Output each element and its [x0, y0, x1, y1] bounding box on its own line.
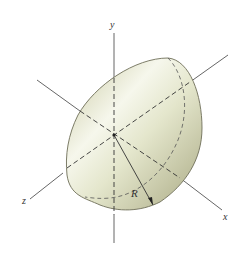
x-axis-label: x	[222, 211, 228, 222]
hemisphere-figure: y z x R	[0, 0, 245, 267]
z-axis-label: z	[21, 195, 26, 206]
origin-point	[112, 133, 115, 136]
radius-label: R	[130, 187, 138, 199]
y-axis-label: y	[109, 19, 115, 30]
hemisphere-diagram: y z x R	[0, 0, 245, 267]
